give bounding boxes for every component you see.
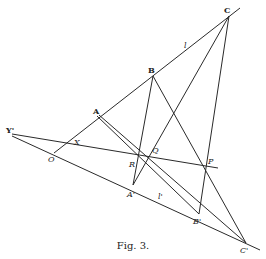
line-a-c1 <box>99 115 246 243</box>
line-y-p <box>12 134 218 168</box>
label-b-prime: B' <box>192 217 201 226</box>
figure-caption: Fig. 3. <box>0 240 266 251</box>
label-y-prime: Y' <box>5 125 14 135</box>
label-o: O <box>48 155 55 164</box>
geometry-figure: C B A Y' X O R Q P A' B' C' l l' <box>0 0 266 259</box>
label-line-l-prime: l' <box>158 192 163 201</box>
label-a-prime: A' <box>126 190 135 199</box>
label-a: A <box>92 106 100 116</box>
line-b-a1 <box>133 76 153 185</box>
label-p: P <box>207 157 214 166</box>
label-b: B <box>148 65 155 75</box>
label-c: C <box>224 5 230 15</box>
label-line-l: l <box>184 41 187 50</box>
line-c-b1 <box>199 16 229 214</box>
line-c-a1 <box>133 16 229 185</box>
line-l <box>54 8 240 153</box>
label-q: Q <box>152 146 159 155</box>
label-x: X <box>73 138 80 147</box>
label-r: R <box>128 160 135 169</box>
